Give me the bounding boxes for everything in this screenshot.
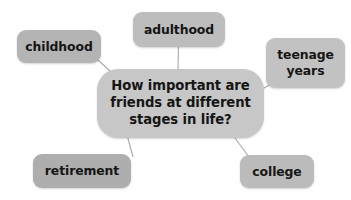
connector-central-retirement bbox=[127, 135, 133, 157]
central-node-question[interactable]: How important are friends at different s… bbox=[97, 69, 264, 138]
branch-node-label-adulthood: adulthood bbox=[144, 22, 214, 37]
branch-node-college[interactable]: college bbox=[240, 155, 314, 188]
branch-node-childhood[interactable]: childhood bbox=[17, 30, 101, 63]
mind-map-canvas: How important are friends at different s… bbox=[0, 0, 351, 200]
branch-node-adulthood[interactable]: adulthood bbox=[133, 12, 225, 47]
branch-node-label-teenage-years: teenage years bbox=[277, 47, 334, 79]
branch-node-retirement[interactable]: retirement bbox=[33, 154, 131, 188]
central-node-label: How important are friends at different s… bbox=[110, 78, 250, 129]
branch-node-label-childhood: childhood bbox=[25, 39, 92, 54]
branch-node-label-college: college bbox=[252, 164, 301, 179]
connector-central-adulthood bbox=[178, 46, 179, 69]
branch-node-teenage-years[interactable]: teenage years bbox=[266, 38, 345, 88]
branch-node-label-retirement: retirement bbox=[45, 163, 119, 178]
